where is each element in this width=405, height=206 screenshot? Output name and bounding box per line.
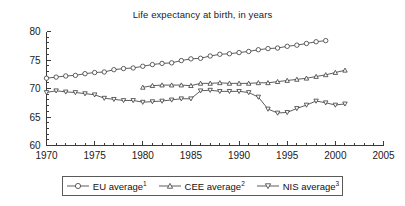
data-point-marker <box>121 99 125 103</box>
data-point-marker <box>179 97 183 101</box>
data-point-marker <box>237 50 241 54</box>
data-point-marker <box>343 102 347 106</box>
x-axis-tick-label: 2005 <box>372 150 395 161</box>
data-point-marker <box>218 89 222 93</box>
data-point-marker <box>44 76 48 80</box>
data-point-marker <box>237 89 241 93</box>
data-point-marker <box>295 77 299 81</box>
triangle-up-marker-icon <box>158 181 182 191</box>
data-point-marker <box>141 85 145 89</box>
data-point-marker <box>141 100 145 104</box>
data-point-marker <box>73 91 77 95</box>
y-axis-tick-label: 75 <box>29 55 41 66</box>
axis-lines <box>47 32 384 146</box>
data-point-marker <box>189 97 193 101</box>
data-point-marker <box>83 71 87 75</box>
data-point-marker <box>92 93 96 97</box>
data-point-marker <box>150 83 154 87</box>
data-point-marker <box>189 57 193 61</box>
data-point-marker <box>169 83 173 87</box>
data-point-marker <box>295 107 299 111</box>
y-axis-tick-label: 80 <box>29 26 41 37</box>
legend-item-label: EU average1 <box>93 181 147 192</box>
data-point-marker <box>285 78 289 82</box>
legend-footnote-marker: 2 <box>241 179 245 186</box>
legend-item-label: CEE average2 <box>185 181 245 192</box>
series-line <box>47 41 326 79</box>
data-point-marker <box>112 97 116 101</box>
data-point-marker <box>150 62 154 66</box>
data-point-marker <box>218 81 222 85</box>
data-point-marker <box>266 81 270 85</box>
data-point-marker <box>179 58 183 62</box>
triangle-down-marker-icon <box>256 181 280 191</box>
y-axis-tick-label: 65 <box>29 112 41 123</box>
data-point-marker <box>218 52 222 56</box>
data-point-marker <box>208 88 212 92</box>
legend-footnote-marker: 3 <box>336 179 340 186</box>
data-point-marker <box>189 83 193 87</box>
data-point-marker <box>285 44 289 48</box>
data-point-marker <box>247 91 251 95</box>
data-point-marker <box>121 66 125 70</box>
data-point-marker <box>227 52 231 56</box>
data-point-marker <box>102 70 106 74</box>
data-point-marker <box>237 81 241 85</box>
legend-item-nis-average[interactable]: NIS average3 <box>256 181 339 192</box>
data-point-marker <box>256 48 260 52</box>
data-point-marker <box>198 56 202 60</box>
data-point-marker <box>160 99 164 103</box>
data-point-marker <box>304 76 308 80</box>
data-point-marker <box>324 38 328 42</box>
data-point-marker <box>160 83 164 87</box>
y-axis-tick-label: 70 <box>29 83 41 94</box>
data-point-marker <box>169 98 173 102</box>
data-point-marker <box>275 111 279 115</box>
data-point-marker <box>314 40 318 44</box>
series-cee-average <box>141 68 348 89</box>
data-point-marker <box>208 81 212 85</box>
x-axis-tick-label: 1980 <box>132 150 155 161</box>
data-point-marker <box>112 67 116 71</box>
circle-marker-icon <box>66 181 90 191</box>
data-point-marker <box>160 61 164 65</box>
x-axis-tick-label: 1975 <box>84 150 107 161</box>
series-nis-average <box>44 88 347 115</box>
data-point-marker <box>256 81 260 85</box>
series-line <box>47 90 345 113</box>
legend-item-eu-average[interactable]: EU average1 <box>66 181 147 192</box>
data-point-marker <box>198 81 202 85</box>
data-point-marker <box>102 96 106 100</box>
data-point-marker <box>333 70 337 74</box>
data-point-marker <box>343 68 347 72</box>
x-axis-tick-label: 1970 <box>35 150 58 161</box>
data-point-marker <box>324 73 328 77</box>
data-point-marker <box>150 100 154 104</box>
legend-item-label: NIS average3 <box>283 181 339 192</box>
data-point-marker <box>295 43 299 47</box>
data-point-marker <box>141 64 145 68</box>
data-point-marker <box>275 46 279 50</box>
data-point-marker <box>333 103 337 107</box>
data-point-marker <box>131 99 135 103</box>
data-point-marker <box>64 74 68 78</box>
data-point-marker <box>266 107 270 111</box>
data-point-marker <box>227 89 231 93</box>
data-point-marker <box>314 99 318 103</box>
chart-legend: EU average1CEE average2NIS average3 <box>62 176 343 196</box>
data-point-marker <box>304 41 308 45</box>
data-point-marker <box>169 61 173 65</box>
data-point-marker <box>131 66 135 70</box>
data-point-marker <box>92 70 96 74</box>
data-point-marker <box>275 79 279 83</box>
x-axis-tick-label: 1990 <box>228 150 251 161</box>
series-eu-average <box>44 38 328 80</box>
data-point-marker <box>314 74 318 78</box>
legend-item-cee-average[interactable]: CEE average2 <box>158 181 245 192</box>
data-point-marker <box>83 92 87 96</box>
data-point-marker <box>247 81 251 85</box>
data-point-marker <box>266 46 270 50</box>
chart-container: Life expectancy at birth, in years 60657… <box>0 0 405 206</box>
x-axis-tick-label: 1985 <box>180 150 203 161</box>
data-point-marker <box>64 90 68 94</box>
